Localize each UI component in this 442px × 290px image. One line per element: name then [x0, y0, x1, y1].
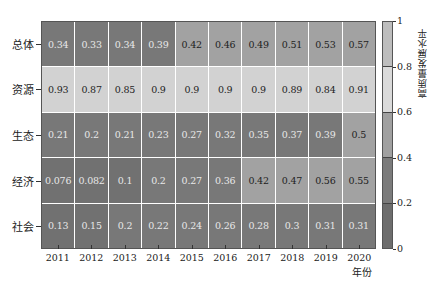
heatmap-cell: 0.87: [75, 67, 107, 111]
heatmap-cell: 0.56: [309, 158, 341, 202]
x-tick: [58, 245, 59, 249]
heatmap-cell: 0.85: [109, 67, 141, 111]
heatmap-grid: 0.340.330.340.390.420.460.490.510.530.57…: [41, 21, 376, 249]
heatmap-cell: 0.93: [42, 67, 74, 111]
heatmap-cell: 0.2: [75, 113, 107, 157]
y-axis-labels: 总体资源生态经济社会: [0, 21, 38, 249]
heatmap-cell: 0.57: [343, 22, 375, 66]
x-label: 2014: [142, 252, 176, 263]
heatmap-cell: 0.28: [242, 204, 274, 248]
heatmap-cell: 0.21: [42, 113, 74, 157]
x-tick: [359, 245, 360, 249]
colorbar-title: 高质量发展水平: [418, 28, 430, 98]
x-label: 2019: [309, 252, 343, 263]
heatmap-cell: 0.34: [42, 22, 74, 66]
x-tick: [192, 245, 193, 249]
colorbar-tick: [393, 67, 396, 68]
heatmap-cell: 0.46: [209, 22, 241, 66]
y-label: 经济: [0, 158, 38, 204]
heatmap-cell: 0.076: [42, 158, 74, 202]
heatmap-cell: 0.23: [142, 113, 174, 157]
heatmap-cell: 0.53: [309, 22, 341, 66]
heatmap-cell: 0.47: [276, 158, 308, 202]
colorbar-tick: [393, 203, 396, 204]
x-label: 2018: [276, 252, 310, 263]
colorbar-tick-label: 0.2: [397, 198, 412, 208]
x-axis-title: 年份: [347, 264, 377, 279]
heatmap-cell: 0.3: [276, 204, 308, 248]
heatmap-cell: 0.37: [276, 113, 308, 157]
heatmap-cell: 0.21: [109, 113, 141, 157]
x-tick: [91, 245, 92, 249]
x-label: 2012: [75, 252, 109, 263]
x-label: 2011: [41, 252, 75, 263]
colorbar-tick-label: 0.4: [397, 153, 412, 163]
x-tick: [125, 245, 126, 249]
colorbar-tick: [393, 249, 396, 250]
colorbar-tick: [393, 21, 396, 22]
x-tick: [259, 245, 260, 249]
heatmap-cell: 0.33: [75, 22, 107, 66]
heatmap-cell: 0.34: [109, 22, 141, 66]
heatmap-cell: 0.49: [242, 22, 274, 66]
colorbar-tick: [393, 112, 396, 113]
colorbar-tick-label: 0: [397, 244, 403, 254]
heatmap-cell: 0.91: [343, 67, 375, 111]
x-tick: [225, 245, 226, 249]
colorbar-band: [383, 67, 392, 112]
heatmap-cell: 0.9: [242, 67, 274, 111]
heatmap-cell: 0.35: [242, 113, 274, 157]
heatmap-cell: 0.42: [176, 22, 208, 66]
x-label: 2015: [175, 252, 209, 263]
colorbar-band: [383, 22, 392, 67]
y-label: 总体: [0, 21, 38, 67]
heatmap-cell: 0.27: [176, 113, 208, 157]
heatmap-cell: 0.22: [142, 204, 174, 248]
x-tick: [158, 245, 159, 249]
colorbar-tick-label: 0.6: [397, 107, 412, 117]
heatmap-cell: 0.36: [209, 158, 241, 202]
heatmap-cell: 0.26: [209, 204, 241, 248]
x-label: 2020: [343, 252, 377, 263]
y-label: 社会: [0, 203, 38, 249]
colorbar: [382, 21, 393, 249]
heatmap-cell: 0.42: [242, 158, 274, 202]
heatmap-cell: 0.9: [176, 67, 208, 111]
heatmap-cell: 0.27: [176, 158, 208, 202]
heatmap-cell: 0.9: [209, 67, 241, 111]
y-label: 生态: [0, 112, 38, 158]
x-label: 2017: [242, 252, 276, 263]
x-axis-labels: 2011201220132014201520162017201820192020: [41, 252, 376, 263]
x-tick: [326, 245, 327, 249]
heatmap-cell: 0.39: [142, 22, 174, 66]
y-label: 资源: [0, 67, 38, 113]
colorbar-tick-label: 0.8: [397, 62, 412, 72]
heatmap-cell: 0.082: [75, 158, 107, 202]
x-label: 2013: [108, 252, 142, 263]
heatmap-cell: 0.84: [309, 67, 341, 111]
heatmap-cell: 0.39: [309, 113, 341, 157]
heatmap-cell: 0.31: [309, 204, 341, 248]
colorbar-band: [383, 158, 392, 203]
colorbar-tick: [393, 158, 396, 159]
colorbar-tick-label: 1: [397, 16, 403, 26]
heatmap-cell: 0.13: [42, 204, 74, 248]
heatmap-cell: 0.1: [109, 158, 141, 202]
heatmap-cell: 0.31: [343, 204, 375, 248]
heatmap-cell: 0.55: [343, 158, 375, 202]
heatmap-cell: 0.5: [343, 113, 375, 157]
heatmap-cell: 0.89: [276, 67, 308, 111]
heatmap-cell: 0.2: [142, 158, 174, 202]
x-tick: [292, 245, 293, 249]
heatmap-cell: 0.32: [209, 113, 241, 157]
heatmap-cell: 0.15: [75, 204, 107, 248]
heatmap-cell: 0.51: [276, 22, 308, 66]
heatmap-cell: 0.2: [109, 204, 141, 248]
heatmap-cell: 0.9: [142, 67, 174, 111]
colorbar-band: [383, 113, 392, 158]
colorbar-band: [383, 204, 392, 248]
x-label: 2016: [209, 252, 243, 263]
heatmap-cell: 0.24: [176, 204, 208, 248]
